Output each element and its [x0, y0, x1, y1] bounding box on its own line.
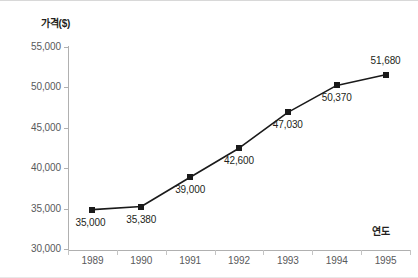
x-axis-tick-mark — [361, 250, 362, 255]
x-axis-tick-mark — [263, 250, 264, 255]
x-axis-tick-label: 1990 — [130, 255, 152, 266]
data-point-marker — [383, 72, 389, 78]
x-axis-line — [68, 250, 410, 251]
x-axis-tick-label: 1995 — [375, 255, 397, 266]
data-point-label: 35,380 — [126, 214, 156, 225]
x-axis-tick-mark — [312, 250, 313, 255]
chart-screenshot: 가격($) 연도 55,00050,00045,00040,00035,0003… — [0, 0, 418, 278]
data-point-marker — [236, 145, 242, 151]
data-point-marker — [334, 82, 340, 88]
y-axis-tick-mark — [64, 128, 68, 129]
y-axis-title: 가격($) — [41, 15, 70, 30]
data-point-label: 47,030 — [273, 119, 303, 130]
y-axis-tick-label: 50,000 — [31, 81, 61, 92]
data-point-label: 51,680 — [371, 55, 401, 66]
y-axis-tick-label: 35,000 — [31, 203, 61, 214]
y-axis-tick-mark — [64, 209, 68, 210]
data-point-label: 42,600 — [224, 155, 254, 166]
x-axis-tick-label: 1992 — [228, 255, 250, 266]
x-axis-title: 연도 — [372, 223, 390, 238]
data-point-marker — [89, 207, 95, 213]
y-axis-tick-mark — [64, 47, 68, 48]
y-axis-tick-label: 30,000 — [31, 243, 61, 254]
data-point-marker — [187, 174, 193, 180]
y-axis-tick-label: 55,000 — [31, 41, 61, 52]
data-point-marker — [285, 109, 291, 115]
y-axis-line — [68, 46, 69, 251]
x-axis-tick-mark — [68, 250, 69, 255]
data-point-label: 39,000 — [175, 184, 205, 195]
x-axis-tick-label: 1991 — [179, 255, 201, 266]
x-axis-tick-mark — [410, 250, 411, 255]
x-axis-tick-label: 1993 — [277, 255, 299, 266]
y-axis-tick-label: 40,000 — [31, 162, 61, 173]
x-axis-tick-label: 1994 — [326, 255, 348, 266]
data-point-label: 50,370 — [322, 92, 352, 103]
y-axis-tick-mark — [64, 87, 68, 88]
x-axis-tick-label: 1989 — [81, 255, 103, 266]
x-axis-tick-mark — [215, 250, 216, 255]
y-axis-tick-mark — [64, 168, 68, 169]
x-axis-tick-mark — [117, 250, 118, 255]
data-point-marker — [138, 204, 144, 210]
data-point-label: 35,000 — [75, 217, 105, 228]
y-axis-tick-label: 45,000 — [31, 122, 61, 133]
x-axis-tick-mark — [166, 250, 167, 255]
line-series-path — [0, 1, 418, 278]
